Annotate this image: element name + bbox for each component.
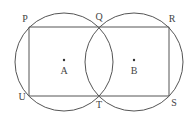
center-dot-a [63,59,65,61]
label-t: T [96,99,102,110]
label-r: R [169,13,176,24]
diagram-canvas: P Q R S T U A B [0,0,192,116]
label-b: B [131,65,138,76]
geometry-figure: P Q R S T U A B [0,0,192,116]
center-dot-b [133,59,135,61]
label-q: Q [95,11,103,22]
label-s: S [171,97,177,108]
label-p: P [22,13,28,24]
label-a: A [60,65,68,76]
label-u: U [18,91,26,102]
